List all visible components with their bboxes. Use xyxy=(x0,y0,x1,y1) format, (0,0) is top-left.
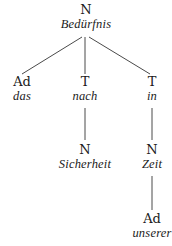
node-category: N xyxy=(51,3,121,17)
node-word: Sicherheit xyxy=(50,157,120,172)
node-zeit: N Zeit xyxy=(117,143,172,172)
tree-edges xyxy=(0,0,172,246)
edge-root-in xyxy=(89,37,150,74)
node-nach: T nach xyxy=(50,75,120,104)
node-word: das xyxy=(0,89,57,104)
node-category: N xyxy=(117,143,172,157)
node-category: T xyxy=(117,75,172,89)
node-unserer: Ad unserer xyxy=(117,212,172,241)
node-category: Ad xyxy=(117,212,172,226)
node-category: T xyxy=(50,75,120,89)
node-word: unserer xyxy=(117,226,172,241)
node-word: in xyxy=(117,89,172,104)
node-word: Bedürfnis xyxy=(51,17,121,32)
node-das: Ad das xyxy=(0,75,57,104)
node-in: T in xyxy=(117,75,172,104)
node-word: Zeit xyxy=(117,157,172,172)
node-root: N Bedürfnis xyxy=(51,3,121,32)
node-word: nach xyxy=(50,89,120,104)
node-category: Ad xyxy=(0,75,57,89)
dependency-tree: N Bedürfnis Ad das T nach T in N Sicherh… xyxy=(0,0,172,246)
node-category: N xyxy=(50,143,120,157)
node-sicherheit: N Sicherheit xyxy=(50,143,120,172)
edge-root-das xyxy=(22,37,82,74)
